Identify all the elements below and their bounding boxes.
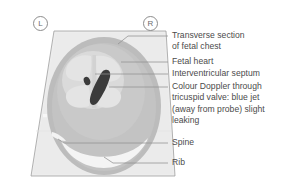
label-transverse-section-of-fetal-chest: Transverse section of fetal chest (172, 30, 245, 53)
label-spine: Spine (172, 137, 194, 148)
calibration-marker (43, 114, 47, 117)
label-rib: Rib (172, 157, 185, 168)
label-interventricular-septum: Interventricular septum (172, 68, 260, 79)
label-colour-doppler-tricuspid-jet: Colour Doppler through tricuspid valve: … (172, 81, 265, 126)
right-marker: R (143, 16, 158, 31)
left-marker: L (33, 16, 48, 31)
label-fetal-heart: Fetal heart (172, 56, 213, 67)
